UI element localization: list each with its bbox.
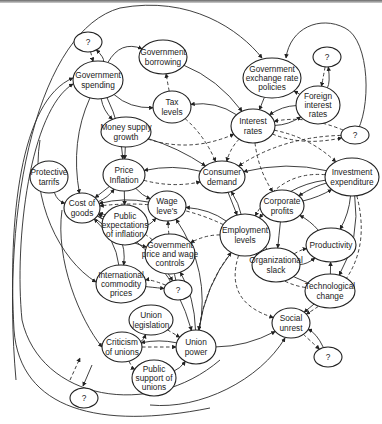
node-label: Productivity <box>310 240 354 250</box>
edge-org_slack-to-productivity <box>294 249 307 254</box>
edge-gov_spending-to-gov_borrowing <box>108 46 142 62</box>
edge-investment_exp-to-corporate_profits <box>299 183 327 196</box>
node-tech-change: Technologicalchange <box>305 274 355 308</box>
edge-q4-to-intl_commodity <box>145 280 165 285</box>
node-label: ? <box>326 352 331 362</box>
edge-interest_rates-to-q3 <box>272 134 341 141</box>
node-label: rates <box>244 126 262 136</box>
node-label: Inflation <box>109 175 138 185</box>
edge-investment_exp-to-productivity <box>340 196 350 229</box>
node-label: ? <box>325 52 330 62</box>
edge-investment_exp-to-consumer_demand <box>244 166 327 172</box>
node-label: controls <box>155 258 184 268</box>
node-label: ? <box>176 285 181 295</box>
edge-cost_of_goods-to-price_inflation <box>98 189 114 202</box>
node-investment-exp: Investmentexpenditure <box>325 158 379 196</box>
node-interest-rates: Interestrates <box>231 109 275 143</box>
edge-gov_spending-to-q1 <box>96 50 103 62</box>
edge-foreign_interest-to-q2 <box>327 67 329 88</box>
node-label: demand <box>207 177 237 187</box>
long-curve-q6_link_a <box>70 358 80 380</box>
node-wage-levels: Wageleve's <box>148 191 186 221</box>
node-label: change <box>316 291 344 301</box>
edge-q1-to-gov_spending <box>91 52 94 62</box>
node-label: spending <box>81 80 115 90</box>
edge-price_inflation-to-wage_levels <box>136 188 151 199</box>
node-price-inflation: PriceInflation <box>103 159 145 191</box>
edge-price_inflation-to-consumer_demand <box>144 180 200 184</box>
edge-gov_price_wage-to-q4 <box>168 274 173 281</box>
edge-q5-to-social_unrest <box>308 330 323 348</box>
edge-employment_levels-to-consumer_demand <box>231 192 241 215</box>
node-cost-of-goods: Cost ofgoods <box>64 193 100 223</box>
nodes-layer: ?GovernmentspendingGovernmentborrowingTa… <box>30 32 379 408</box>
edge-union_power-to-social_unrest <box>216 331 275 347</box>
edge-q4-to-gov_price_wage <box>174 273 175 280</box>
node-employment-levels: Employmentlevels <box>220 214 270 256</box>
edge-tech_change-to-social_unrest <box>304 304 314 312</box>
node-label: leve's <box>157 206 178 216</box>
node-intl-commodity: Internationalcommodityprices <box>96 265 146 303</box>
edge-gov_price_wage-to-wage_levels <box>168 221 169 234</box>
node-label: ? <box>353 130 358 140</box>
edge-q2-to-foreign_interest <box>322 67 326 86</box>
node-label: levels <box>161 107 182 117</box>
long-curve-left_to_criticism <box>61 210 102 347</box>
node-label: ? <box>82 393 87 403</box>
edge-foreign_interest-to-gov_exchange <box>294 91 300 94</box>
node-protective-tariffs: Protectivetarrifs <box>30 161 68 193</box>
node-label: unrest <box>279 323 303 333</box>
node-gov-exchange: Governmentexchange ratepolicies <box>243 58 301 98</box>
edge-employment_levels-to-gov_price_wage <box>191 235 220 243</box>
node-label: borrowing <box>145 57 182 67</box>
edge-employment_levels-to-union_power <box>199 253 232 331</box>
edge-interest_rates-to-tax_levels <box>191 104 237 115</box>
node-q5: ? <box>314 347 342 367</box>
edge-gov_spending-to-cost_of_goods <box>76 98 89 193</box>
causal-loop-diagram: ?GovernmentspendingGovernmentborrowingTa… <box>0 0 382 424</box>
node-q3: ? <box>341 126 369 144</box>
edge-protective_tariffs-to-cost_of_goods <box>54 192 65 203</box>
node-foreign-interest: Foreigninterestrates <box>296 86 340 124</box>
node-social-unrest: Socialunrest <box>272 308 310 338</box>
edge-interest_rates-to-foreign_interest <box>275 117 301 126</box>
edge-intl_commodity-to-q4 <box>146 287 164 289</box>
edge-criticism_unions-to-public_support <box>129 361 135 369</box>
node-union-legislation: Unionlegislation <box>129 305 173 335</box>
edge-employment_levels-to-wage_levels <box>186 207 226 221</box>
edge-tax_levels-to-gov_borrowing <box>166 74 169 91</box>
edge-foreign_interest-to-interest_rates <box>270 106 297 115</box>
node-label: of inflation <box>106 229 144 239</box>
edge-union_power-to-criticism_unions <box>141 341 176 343</box>
node-public-expectations: Publicexpectationsof inflation <box>102 205 149 245</box>
edge-gov_spending-to-money_supply <box>101 99 112 120</box>
node-gov-price-wage: Governmentprice and wagecontrols <box>142 234 199 274</box>
node-gov-borrowing: Governmentborrowing <box>139 40 187 74</box>
edge-corporate_profits-to-org_slack <box>278 222 281 248</box>
edge-union_legislation-to-union_power <box>168 330 180 337</box>
node-gov-spending: Governmentspending <box>73 61 123 99</box>
node-label: policies <box>258 82 286 92</box>
node-label: goods <box>71 208 94 218</box>
node-money-supply: Money supplygrowth <box>100 117 152 147</box>
node-label: profits <box>271 206 294 216</box>
node-union-power: Unionpower <box>176 330 216 364</box>
node-label: growth <box>114 132 139 142</box>
node-public-support: Publicsupport ofunions <box>132 360 176 396</box>
node-label: tarrifs <box>39 177 60 187</box>
edge-money_supply-to-interest_rates <box>148 134 234 145</box>
node-tax-levels: Taxlevels <box>153 91 191 123</box>
edge-wage_levels-to-cost_of_goods <box>99 200 148 204</box>
edge-interest_rates-to-investment_exp <box>274 130 336 162</box>
edge-union_power-to-employment_levels <box>199 253 232 331</box>
node-criticism-unions: Criticismof unions <box>102 332 142 362</box>
node-q2: ? <box>313 47 341 67</box>
edge-interest_rates-to-consumer_demand <box>227 139 240 161</box>
edge-criticism_unions-to-union_legislation <box>141 335 146 342</box>
node-label: slack <box>267 265 287 275</box>
edge-money_supply-to-price_inflation <box>125 147 126 159</box>
edge-public_expectations-to-wage_levels <box>148 218 156 224</box>
node-label: power <box>185 347 208 357</box>
node-label: rates <box>309 109 327 119</box>
edge-money_supply-to-consumer_demand <box>148 139 205 166</box>
